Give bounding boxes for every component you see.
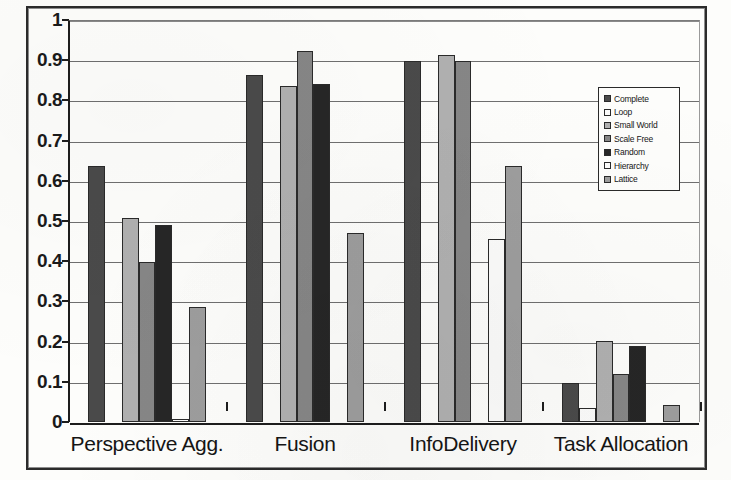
y-axis-tick-label: 0.7: [6, 130, 62, 152]
x-axis-category-label: Task Allocation: [554, 432, 688, 456]
bar: [562, 383, 579, 422]
legend-swatch-icon: [604, 109, 611, 116]
legend-item-label: Loop: [614, 107, 632, 117]
legend-item: Small World: [604, 119, 675, 132]
legend-item-label: Hierarchy: [614, 161, 649, 171]
bar: [488, 239, 505, 422]
bar: [122, 218, 139, 422]
legend-item-label: Small World: [614, 120, 657, 130]
legend-item-label: Scale Free: [614, 134, 653, 144]
bar: [313, 84, 330, 422]
legend-item: Random: [604, 146, 675, 159]
bar-chart: 10.90.80.70.60.50.40.30.20.10 Perspectiv…: [0, 0, 731, 480]
x-axis-tick-mark: [542, 402, 544, 411]
y-axis-tick-label: 0.6: [6, 170, 62, 192]
y-axis-tick-label: 0.1: [6, 371, 62, 393]
x-axis-tick-mark: [384, 402, 386, 411]
gridline: [70, 21, 699, 22]
bar: [139, 262, 156, 422]
legend-swatch-icon: [604, 95, 611, 102]
bar: [455, 61, 472, 422]
bar: [189, 307, 206, 422]
x-axis-category-label: InfoDelivery: [409, 432, 516, 456]
bar: [88, 166, 105, 422]
bar: [347, 233, 364, 422]
legend-swatch-icon: [604, 176, 611, 183]
y-axis-tick-label: 0: [6, 411, 62, 433]
y-axis-tick-label: 0.4: [6, 250, 62, 272]
bar: [297, 51, 314, 422]
legend-item: Hierarchy: [604, 159, 675, 172]
bar: [579, 408, 596, 422]
legend-swatch-icon: [604, 149, 611, 156]
gridline: [70, 423, 699, 425]
x-axis-category-label: Fusion: [274, 432, 335, 456]
bar: [438, 55, 455, 422]
bar: [629, 346, 646, 422]
y-axis-tick-label: 1: [6, 9, 62, 31]
x-axis-tick-mark: [226, 402, 228, 411]
y-axis-tick-label: 0.9: [6, 49, 62, 71]
legend-item: Complete: [604, 92, 675, 105]
bar: [246, 75, 263, 422]
bar: [596, 341, 613, 422]
chart-legend: CompleteLoopSmall WorldScale FreeRandomH…: [598, 87, 680, 191]
legend-swatch-icon: [604, 162, 611, 169]
x-axis-tick-mark: [68, 402, 70, 411]
legend-swatch-icon: [604, 135, 611, 142]
legend-item-label: Lattice: [614, 174, 638, 184]
x-axis-tick-mark: [700, 402, 702, 411]
legend-item-label: Complete: [614, 94, 649, 104]
y-axis-tick-label: 0.2: [6, 331, 62, 353]
legend-item-label: Random: [614, 147, 645, 157]
y-axis-tick-label: 0.3: [6, 290, 62, 312]
bar: [613, 374, 630, 422]
bar: [172, 419, 189, 422]
legend-item: Loop: [604, 105, 675, 118]
bar: [404, 61, 421, 422]
legend-item: Lattice: [604, 172, 675, 185]
bar: [663, 405, 680, 422]
y-axis-tick-label: 0.8: [6, 89, 62, 111]
legend-item: Scale Free: [604, 132, 675, 145]
legend-swatch-icon: [604, 122, 611, 129]
gridline: [70, 222, 699, 223]
bar: [505, 166, 522, 422]
x-axis-category-label: Perspective Agg.: [71, 432, 224, 456]
y-axis-tick-label: 0.5: [6, 210, 62, 232]
plot-area: [68, 20, 700, 422]
bar: [280, 86, 297, 422]
bar: [155, 225, 172, 422]
gridline: [70, 61, 699, 62]
